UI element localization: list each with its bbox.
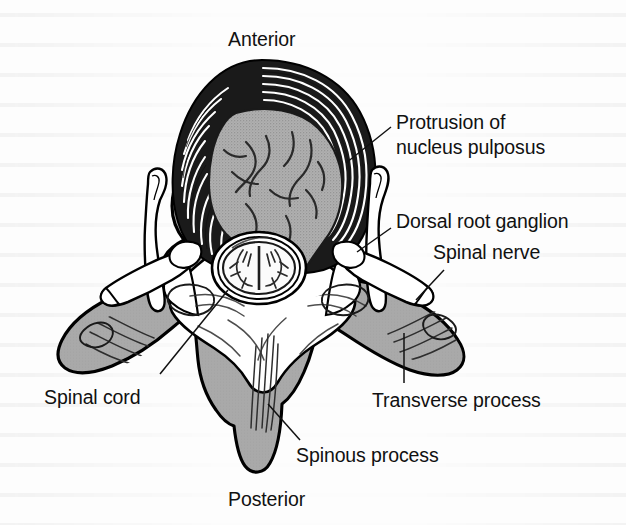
label-dorsal-root-ganglion: Dorsal root ganglion	[396, 209, 569, 234]
label-protrusion-of-nucleus-pulposus: Protrusion of nucleus pulposus	[396, 110, 545, 160]
orientation-label-posterior: Posterior	[228, 487, 305, 512]
figure-canvas: Anterior Protrusion of nucleus pulposus …	[0, 0, 626, 525]
label-protrusion-line2: nucleus pulposus	[396, 135, 545, 160]
label-spinous-process: Spinous process	[296, 443, 439, 468]
label-spinal-nerve: Spinal nerve	[433, 240, 540, 265]
label-protrusion-line1: Protrusion of	[396, 110, 545, 135]
label-transverse-process: Transverse process	[372, 388, 541, 413]
orientation-label-anterior: Anterior	[228, 27, 295, 52]
label-spinal-cord: Spinal cord	[44, 385, 140, 410]
